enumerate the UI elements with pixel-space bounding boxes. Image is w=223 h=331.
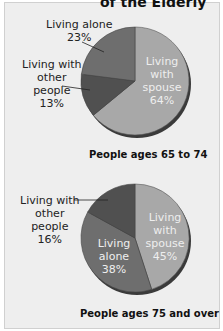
pie1-label-other: Living withotherpeople13% [22,58,82,110]
pie1-label-spouse: Livingwithspouse64% [137,55,187,107]
pie1-label-alone: Living alone23% [46,18,112,44]
pie2-label-alone: Livingalone38% [94,237,134,276]
pie2-label-spouse: Livingwithspouse45% [140,211,190,263]
pie2-label-other: Living withotherpeople16% [20,194,80,246]
pie2-caption: People ages 75 and over [80,308,219,319]
pie1-caption: People ages 65 to 74 [89,149,207,160]
pie-charts [0,0,223,331]
